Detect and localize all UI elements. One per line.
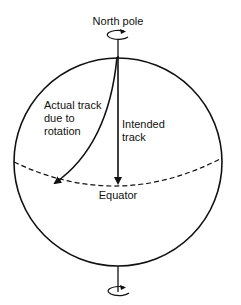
coriolis-diagram: North pole Actual track due to rotation … — [0, 0, 241, 305]
equator-label: Equator — [99, 189, 138, 201]
actual-track-label-1: Actual track — [44, 99, 102, 111]
intended-track-label-2: track — [122, 131, 146, 143]
actual-track-label-2: due to — [44, 112, 75, 124]
north-rotation-icon — [107, 29, 128, 39]
north-pole-label: North pole — [93, 15, 144, 27]
actual-track-label-3: rotation — [44, 125, 81, 137]
intended-track-label-1: Intended — [122, 118, 165, 130]
